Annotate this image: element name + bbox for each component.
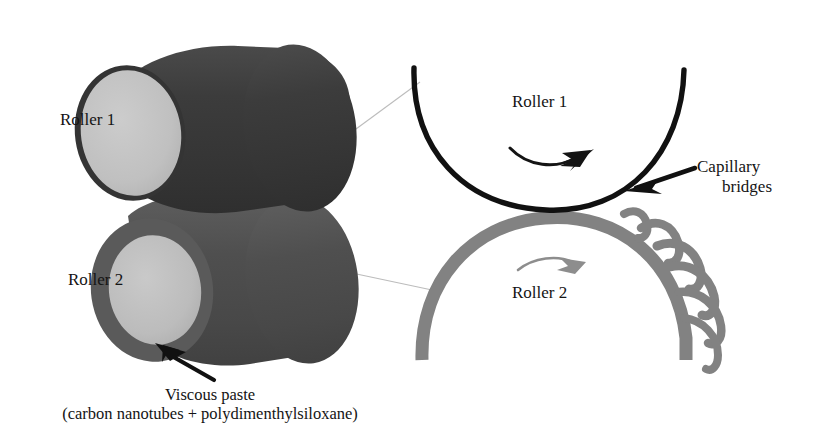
- label-capillary-line2: bridges: [697, 177, 813, 197]
- label-roller1-right: Roller 1: [512, 92, 567, 112]
- label-capillary-line1: Capillary: [697, 157, 813, 177]
- label-roller2-left: Roller 2: [68, 270, 123, 290]
- figure-root: Roller 1 Roller 2 Roller 1 Roller 2 Capi…: [0, 0, 817, 443]
- label-viscous-paste: Viscous paste (carbon nanotubes + polydi…: [0, 385, 420, 424]
- diagram-canvas: [0, 0, 817, 443]
- left-roller2: [82, 189, 370, 371]
- label-roller2-right: Roller 2: [512, 283, 567, 303]
- label-roller1-left: Roller 1: [60, 110, 115, 130]
- roller2-rotation-arrow: [518, 258, 586, 274]
- label-viscous-paste-line1: Viscous paste: [0, 385, 420, 404]
- roller1-rotation-arrow: [510, 148, 594, 171]
- label-capillary-bridges: Capillary bridges: [697, 157, 813, 197]
- label-viscous-paste-line2: (carbon nanotubes + polydimenthylsiloxan…: [0, 404, 420, 423]
